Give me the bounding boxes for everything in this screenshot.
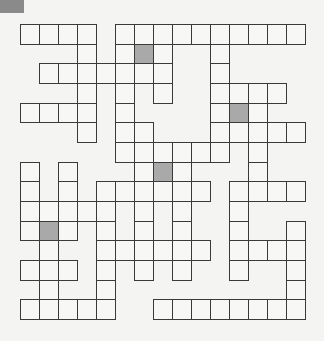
grid-cell[interactable] (286, 299, 306, 320)
grid-cell[interactable] (210, 24, 230, 45)
grid-cell[interactable] (153, 142, 173, 163)
grid-cell[interactable] (267, 181, 287, 202)
grid-cell[interactable] (229, 181, 249, 202)
grid-cell[interactable] (248, 142, 268, 163)
grid-cell[interactable] (229, 221, 249, 242)
grid-cell[interactable] (210, 44, 230, 65)
grid-cell[interactable] (172, 299, 192, 320)
grid-cell[interactable] (39, 260, 59, 281)
grid-cell[interactable] (96, 280, 116, 301)
grid-cell[interactable] (210, 142, 230, 163)
grid-cell[interactable] (172, 240, 192, 261)
grid-cell[interactable] (20, 181, 40, 202)
grid-cell[interactable] (286, 280, 306, 301)
grid-cell[interactable] (115, 24, 135, 45)
grid-cell[interactable] (20, 24, 40, 45)
grid-cell[interactable] (191, 142, 211, 163)
grid-cell[interactable] (153, 24, 173, 45)
grid-cell[interactable] (248, 122, 268, 143)
grid-cell[interactable] (286, 122, 306, 143)
grid-cell[interactable] (172, 24, 192, 45)
grid-cell[interactable] (115, 63, 135, 84)
grid-cell[interactable] (153, 83, 173, 104)
grid-cell[interactable] (115, 122, 135, 143)
grid-cell[interactable] (229, 240, 249, 261)
grid-cell[interactable] (20, 299, 40, 320)
grid-cell[interactable] (172, 221, 192, 242)
grid-cell[interactable] (96, 240, 116, 261)
grid-cell[interactable] (172, 162, 192, 183)
grid-cell[interactable] (39, 24, 59, 45)
grid-cell[interactable] (96, 181, 116, 202)
shaded-cell[interactable] (39, 221, 59, 242)
grid-cell[interactable] (39, 240, 59, 261)
grid-cell[interactable] (134, 122, 154, 143)
grid-cell[interactable] (248, 181, 268, 202)
grid-cell[interactable] (77, 122, 97, 143)
grid-cell[interactable] (134, 63, 154, 84)
grid-cell[interactable] (77, 201, 97, 222)
grid-cell[interactable] (286, 260, 306, 281)
grid-cell[interactable] (96, 260, 116, 281)
grid-cell[interactable] (267, 122, 287, 143)
grid-cell[interactable] (229, 299, 249, 320)
grid-cell[interactable] (286, 240, 306, 261)
grid-cell[interactable] (58, 63, 78, 84)
grid-cell[interactable] (134, 142, 154, 163)
grid-cell[interactable] (115, 142, 135, 163)
grid-cell[interactable] (172, 201, 192, 222)
grid-cell[interactable] (229, 201, 249, 222)
grid-cell[interactable] (39, 280, 59, 301)
grid-cell[interactable] (191, 181, 211, 202)
grid-cell[interactable] (77, 299, 97, 320)
grid-cell[interactable] (267, 24, 287, 45)
grid-cell[interactable] (115, 181, 135, 202)
grid-cell[interactable] (267, 240, 287, 261)
grid-cell[interactable] (229, 122, 249, 143)
grid-cell[interactable] (77, 83, 97, 104)
grid-cell[interactable] (20, 260, 40, 281)
grid-cell[interactable] (20, 201, 40, 222)
grid-cell[interactable] (20, 162, 40, 183)
grid-cell[interactable] (210, 83, 230, 104)
grid-cell[interactable] (153, 240, 173, 261)
grid-cell[interactable] (58, 221, 78, 242)
grid-cell[interactable] (153, 44, 173, 65)
grid-cell[interactable] (77, 24, 97, 45)
grid-cell[interactable] (248, 162, 268, 183)
grid-cell[interactable] (248, 24, 268, 45)
grid-cell[interactable] (267, 83, 287, 104)
grid-cell[interactable] (134, 201, 154, 222)
grid-cell[interactable] (96, 299, 116, 320)
grid-cell[interactable] (77, 63, 97, 84)
grid-cell[interactable] (115, 44, 135, 65)
grid-cell[interactable] (153, 299, 173, 320)
grid-cell[interactable] (58, 299, 78, 320)
shaded-cell[interactable] (153, 162, 173, 183)
grid-cell[interactable] (191, 299, 211, 320)
grid-cell[interactable] (229, 24, 249, 45)
grid-cell[interactable] (210, 122, 230, 143)
grid-cell[interactable] (248, 83, 268, 104)
grid-cell[interactable] (58, 24, 78, 45)
grid-cell[interactable] (134, 260, 154, 281)
grid-cell[interactable] (58, 162, 78, 183)
grid-cell[interactable] (172, 260, 192, 281)
grid-cell[interactable] (229, 83, 249, 104)
grid-cell[interactable] (248, 240, 268, 261)
grid-cell[interactable] (134, 221, 154, 242)
grid-cell[interactable] (134, 162, 154, 183)
grid-cell[interactable] (134, 240, 154, 261)
grid-cell[interactable] (286, 24, 306, 45)
grid-cell[interactable] (115, 83, 135, 104)
grid-cell[interactable] (77, 44, 97, 65)
grid-cell[interactable] (153, 63, 173, 84)
grid-cell[interactable] (248, 299, 268, 320)
grid-cell[interactable] (172, 181, 192, 202)
grid-cell[interactable] (172, 142, 192, 163)
grid-cell[interactable] (58, 181, 78, 202)
grid-cell[interactable] (286, 181, 306, 202)
grid-cell[interactable] (96, 201, 116, 222)
grid-cell[interactable] (20, 221, 40, 242)
grid-cell[interactable] (58, 260, 78, 281)
